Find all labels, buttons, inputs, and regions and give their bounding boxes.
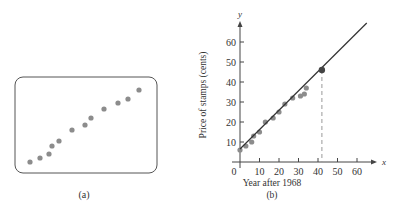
data-point	[115, 100, 120, 105]
data-point	[27, 159, 32, 164]
y-axis-letter: y	[237, 9, 242, 19]
x-axis-letter: x	[381, 157, 386, 167]
x-tick-label: 20	[274, 166, 284, 177]
y-tick-label: 40	[226, 77, 236, 88]
data-point	[249, 139, 254, 144]
data-point	[302, 91, 307, 96]
fitted-line	[240, 23, 367, 149]
x-tick-label: 50	[333, 166, 343, 177]
data-point	[136, 87, 141, 92]
data-point	[49, 143, 54, 148]
y-axis-label: Price of stamps (cents)	[198, 52, 209, 139]
x-axis-arrow-icon	[371, 160, 377, 165]
data-point	[101, 106, 106, 111]
panel-a-label: (a)	[78, 189, 89, 201]
data-point	[69, 127, 74, 132]
x-axis-label: Year after 1968	[243, 178, 302, 188]
y-tick-label: 20	[226, 117, 236, 128]
data-point	[88, 115, 93, 120]
panel-b-label: (b)	[266, 190, 277, 201]
predicted-point	[319, 67, 325, 73]
panel-b: y x 102030405060 0102030405060 Price of …	[198, 9, 386, 201]
x-tick-label: 10	[255, 166, 265, 177]
y-tick-label: 30	[226, 97, 236, 108]
data-point	[125, 96, 130, 101]
data-point	[46, 151, 51, 156]
y-tick-label: 50	[226, 57, 236, 68]
plot-area	[237, 23, 366, 162]
x-tick-label: 40	[313, 166, 323, 177]
y-tick-label: 10	[226, 137, 236, 148]
x-axis-ticks: 0102030405060	[232, 158, 363, 177]
x-tick-label: 0	[232, 166, 237, 177]
data-point	[37, 155, 42, 160]
data-point	[56, 138, 61, 143]
x-tick-label: 30	[294, 166, 304, 177]
x-tick-label: 60	[352, 166, 362, 177]
panel-a: (a)	[15, 77, 157, 201]
data-point	[304, 85, 309, 90]
data-point	[82, 122, 87, 127]
y-axis-arrow-icon	[238, 21, 243, 27]
y-axis-ticks: 102030405060	[226, 37, 244, 148]
y-tick-label: 60	[226, 37, 236, 48]
figure: (a) y x 102030405060 0102030405060 Price…	[0, 0, 396, 216]
